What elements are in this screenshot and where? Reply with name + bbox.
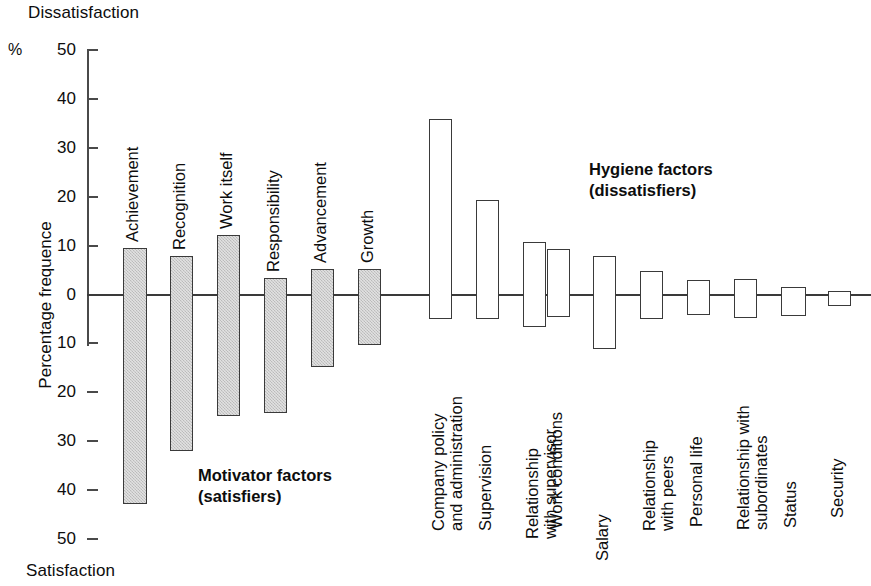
bar-caption-line1: Responsibility [264, 171, 282, 273]
y-axis-tick [87, 196, 98, 198]
bar-work-itself [217, 235, 240, 415]
y-axis-tick-label: 0 [38, 286, 76, 303]
bar-caption-line1: Work conditions [547, 412, 565, 529]
bar-caption-line1: Advancement [311, 162, 329, 263]
bar-advancement [311, 269, 334, 367]
y-axis-tick [87, 440, 98, 442]
bar-caption-line1: Security [828, 459, 846, 519]
bar-personal-life [687, 280, 710, 314]
y-axis-tick [87, 342, 98, 344]
bar-caption-line1: Company policy [429, 414, 447, 531]
legend-hygiene-line2: (dissatisfiers) [589, 181, 696, 199]
y-axis-tick [87, 147, 98, 149]
y-axis-line [87, 50, 89, 346]
bar-salary [593, 256, 616, 348]
bar-caption: Relationshipwith peers [641, 440, 676, 531]
bar-responsibility [264, 278, 287, 413]
bar-caption-line1: Supervision [476, 445, 494, 531]
bar-status [781, 287, 806, 316]
chart-figure: Dissatisfaction Satisfaction % Percentag… [0, 0, 871, 586]
bar-caption-line1: Status [781, 481, 799, 528]
legend-hygiene-line1: Hygiene factors [589, 160, 713, 178]
y-axis-tick [87, 489, 98, 491]
y-axis-tick [87, 49, 98, 51]
bar-caption-line1: Relationship with [734, 405, 752, 530]
bar-caption-line1: Achievement [123, 146, 141, 241]
legend-motivator-line2: (satisfiers) [198, 487, 281, 505]
bar-caption: Advancement [312, 162, 330, 263]
bar-caption: Growth [359, 209, 377, 262]
y-axis-tick-label: 20 [38, 383, 76, 400]
y-axis-tick-label: 30 [38, 432, 76, 449]
bar-supervision [476, 200, 499, 320]
bar-relationship-with [734, 279, 757, 318]
bar-caption: Status [782, 481, 800, 528]
bar-caption-line1: Growth [358, 209, 376, 262]
bar-caption-line1: Salary [593, 514, 611, 561]
bar-caption-line1: Relationship [640, 440, 658, 531]
y-axis-tick [87, 98, 98, 100]
bar-company-policy [429, 119, 452, 319]
bar-caption: Personal life [688, 436, 706, 527]
y-axis-tick-label: 50 [38, 41, 76, 58]
bar-recognition [170, 256, 193, 451]
bar-security [828, 291, 851, 306]
bar-relationship [523, 242, 546, 327]
legend-motivator: Motivator factors (satisfiers) [198, 465, 332, 507]
bar-caption: Supervision [477, 445, 495, 531]
bar-caption: Work itself [218, 153, 236, 230]
y-axis-tick-label: 40 [38, 90, 76, 107]
y-axis-tick-label: 30 [38, 139, 76, 156]
bar-caption: Salary [594, 514, 612, 561]
bar-caption: Company policyand administration [430, 397, 465, 532]
bar-caption-line1: Personal life [687, 436, 705, 527]
bar-achievement [123, 248, 147, 504]
y-axis-tick-label: 20 [38, 188, 76, 205]
bar-caption-line1: Work itself [217, 153, 235, 230]
y-axis-tick-label: 50 [38, 530, 76, 547]
bar-caption: Responsibility [265, 171, 283, 273]
bar-caption: Security [829, 459, 847, 519]
y-axis-tick-label: 40 [38, 481, 76, 498]
bar-caption: Achievement [124, 146, 142, 241]
legend-motivator-line1: Motivator factors [198, 466, 332, 484]
dissatisfaction-label: Dissatisfaction [28, 3, 139, 23]
bar-caption-line1: Recognition [170, 163, 188, 250]
y-axis-tick-label: 10 [38, 334, 76, 351]
bar-caption-line1: Relationship [523, 448, 541, 539]
bar-caption: Relationship withsubordinates [735, 405, 770, 530]
y-axis-tick-label: 10 [38, 237, 76, 254]
bar-relationship [640, 271, 663, 319]
bar-caption-line2: subordinates [752, 405, 770, 530]
y-axis-tick [87, 391, 98, 393]
y-axis-tick [87, 538, 98, 540]
y-axis-tick [87, 245, 98, 247]
bar-caption: Recognition [171, 163, 189, 250]
bar-caption: Work conditions [548, 412, 566, 529]
satisfaction-label: Satisfaction [26, 561, 115, 581]
percent-symbol-label: % [8, 41, 22, 59]
legend-hygiene: Hygiene factors (dissatisfiers) [589, 159, 713, 201]
bar-growth [358, 269, 381, 345]
bar-work-conditions [547, 249, 570, 317]
bar-caption-line2: with peers [658, 440, 676, 531]
bar-caption-line2: and administration [448, 397, 466, 532]
